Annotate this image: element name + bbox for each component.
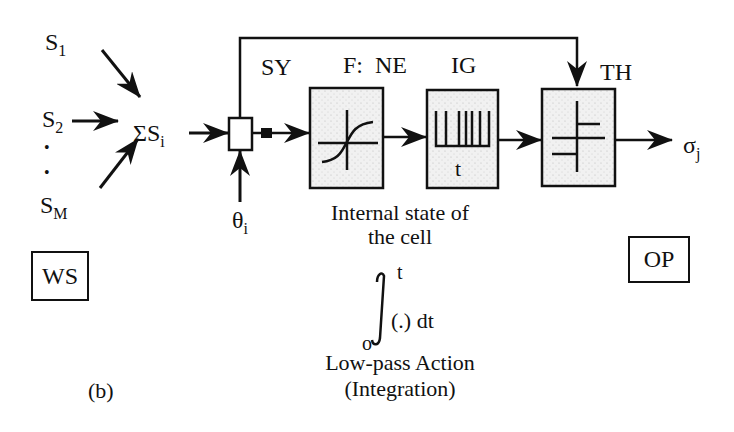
- low-pass-line1: Low-pass Action: [300, 352, 500, 374]
- op-box: OP: [628, 236, 690, 283]
- input-s2: S2: [42, 107, 63, 136]
- label-th: TH: [600, 60, 632, 84]
- th-block: [542, 89, 615, 186]
- ellipsis-dot-1: •: [44, 140, 50, 156]
- summing-junction-box: [229, 118, 252, 150]
- label-ne: F: NE: [343, 53, 407, 77]
- ig-block: [427, 90, 498, 188]
- label-sy: SY: [261, 55, 292, 79]
- low-pass-line2: (Integration): [300, 378, 500, 400]
- internal-state-line1: Internal state of: [310, 202, 490, 224]
- ws-box: WS: [31, 251, 89, 301]
- threshold-label: θi: [232, 208, 248, 237]
- integral-body: (.) dt: [391, 310, 434, 332]
- label-ig-axis: t: [455, 158, 461, 180]
- integral-upper: t: [397, 262, 403, 282]
- input-sm: SM: [40, 193, 68, 222]
- input-s1: S1: [45, 30, 66, 59]
- summation-label: ΣSi: [133, 121, 165, 150]
- ne-block: [310, 88, 383, 188]
- integral-sign: [372, 274, 384, 345]
- input-arrows: [72, 50, 140, 188]
- output-label: σj: [683, 133, 700, 162]
- internal-state-line2: the cell: [310, 226, 490, 248]
- ellipsis-dot-2: •: [44, 165, 50, 181]
- label-ig: IG: [451, 53, 476, 77]
- figure-label: (b): [88, 380, 114, 402]
